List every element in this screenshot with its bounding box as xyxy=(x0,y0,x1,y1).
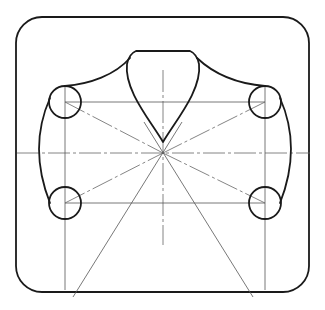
profile-top-left xyxy=(65,58,130,86)
profile-left-side xyxy=(39,98,50,203)
ray-down-right xyxy=(144,122,253,297)
technical-drawing xyxy=(0,0,325,310)
ray-down-left xyxy=(73,122,182,297)
profile-top-right xyxy=(197,58,265,86)
profile-right-side xyxy=(280,98,291,203)
diagonal-bottom-right xyxy=(163,153,265,203)
